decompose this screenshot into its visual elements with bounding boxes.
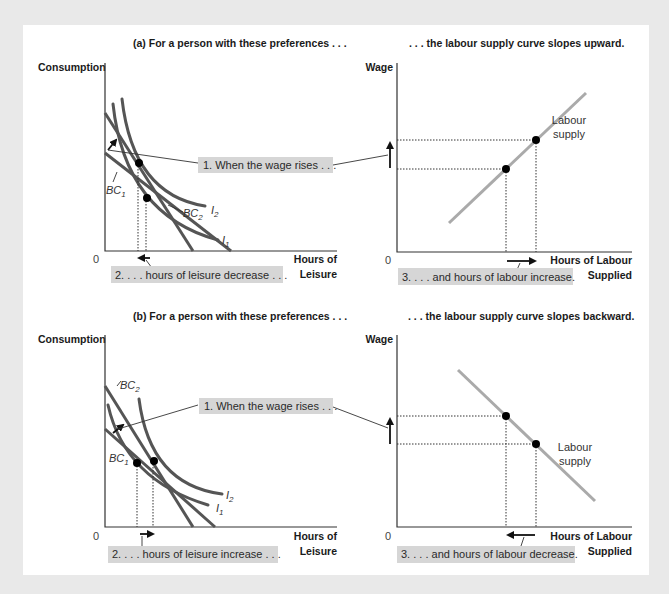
leader-line (113, 172, 117, 182)
origin-label: 0 (385, 530, 391, 542)
i1-label: I1 (216, 502, 224, 517)
x-axis-label-line2: Supplied (588, 269, 632, 281)
chart-a-right: Wage 0 Hours of Labour Supplied Labour s… (365, 61, 632, 285)
i2-label: I2 (226, 489, 234, 504)
optimum-point (143, 194, 151, 202)
x-axis-label-line2: Leisure (300, 268, 338, 280)
pivot-arrow-icon (108, 140, 116, 150)
leader-line (333, 155, 388, 165)
bc2-label: BC2 (120, 379, 140, 394)
y-axis-label: Consumption (38, 333, 106, 345)
panel-a-left-title: (a) For a person with these preferences … (133, 37, 347, 49)
note-labour-increase: 3. . . . and hours of labour increase. (402, 271, 575, 283)
x-axis-label-line1: Hours of Labour (550, 254, 632, 266)
i2-label: I2 (211, 204, 219, 219)
chart-a-left: Consumption 0 Hours of Leisure BC1 BC2 I… (38, 61, 388, 283)
leader-line (521, 537, 524, 546)
bc1-label: BC1 (109, 452, 129, 467)
indifference-curve-i2 (122, 99, 205, 206)
panel-a-right-title: . . . the labour supply curve slopes upw… (409, 37, 624, 49)
y-axis-label: Wage (365, 333, 393, 345)
panel-b-right-title: . . . the labour supply curve slopes bac… (408, 310, 634, 322)
labour-point (532, 136, 540, 144)
labour-supply-curve (458, 370, 595, 501)
labour-supply-label-line2: supply (553, 128, 585, 140)
x-axis-label-line1: Hours of Labour (550, 530, 632, 542)
labour-point (502, 165, 510, 173)
labour-supply-curve (449, 93, 586, 223)
labour-supply-label-line1: Labour (552, 114, 587, 126)
axes (397, 63, 632, 252)
figure-svg: (a) For a person with these preferences … (0, 0, 669, 594)
labour-point (502, 412, 510, 420)
optimum-point (135, 159, 143, 167)
x-axis-label-line1: Hours of (294, 253, 338, 265)
origin-label: 0 (93, 530, 99, 542)
chart-b-left: Consumption 0 Hours of Leisure BC2 BC1 I… (38, 333, 388, 563)
optimum-point (133, 459, 141, 467)
chart-b-right: Wage 0 Hours of Labour Supplied Labour s… (365, 333, 632, 563)
x-axis-label-line1: Hours of (294, 530, 338, 542)
note-leisure-decrease: 2. . . . hours of leisure decrease . . . (115, 269, 287, 281)
labour-supply-label-line1: Labour (558, 441, 593, 453)
panel-b-left-title: (b) For a person with these preferences … (133, 310, 347, 322)
optimum-point (150, 457, 158, 465)
origin-label: 0 (93, 253, 99, 265)
y-axis-label: Wage (365, 61, 393, 73)
leader-line (108, 150, 198, 163)
note-leisure-increase: 2. . . . hours of leisure increase . . . (112, 548, 281, 560)
bc1-label: BC1 (106, 184, 126, 199)
x-axis-label-line2: Supplied (588, 545, 632, 557)
leader-line (118, 405, 198, 429)
note-labour-decrease: 3. . . . and hours of labour decrease. (401, 548, 578, 560)
labour-supply-label-line2: supply (559, 455, 591, 467)
leader-line (333, 407, 388, 428)
x-axis-label-line2: Leisure (300, 545, 338, 557)
y-axis-label: Consumption (38, 61, 106, 73)
labour-point (532, 440, 540, 448)
axes (397, 335, 632, 527)
axes (105, 335, 337, 527)
note-wage-rises: 1. When the wage rises . . . (203, 159, 336, 171)
origin-label: 0 (385, 254, 391, 266)
note-wage-rises: 1. When the wage rises . . . (204, 400, 337, 412)
